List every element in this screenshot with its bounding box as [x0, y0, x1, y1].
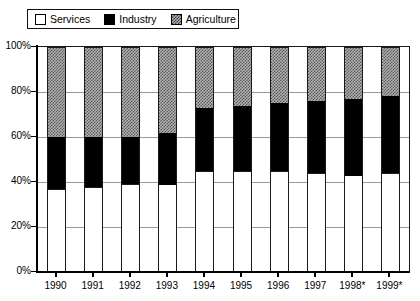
bar-segment-services [84, 187, 103, 273]
bar-segment-agriculture [158, 47, 177, 133]
bar-group [344, 47, 363, 272]
bar-group [84, 47, 103, 272]
bar-segment-services [47, 189, 66, 272]
legend-label-industry: Industry [119, 14, 156, 25]
bar-segment-services [158, 184, 177, 272]
bar-group [47, 47, 66, 272]
y-axis-tick [31, 46, 37, 47]
y-axis-label: 20% [1, 221, 31, 231]
white-square-swatch-icon [35, 14, 46, 25]
bar-segment-industry [121, 137, 140, 184]
x-axis-label: 1992 [110, 280, 150, 291]
black-square-swatch-icon [104, 14, 115, 25]
x-axis-tick [314, 273, 316, 277]
legend-label-services: Services [50, 14, 90, 25]
hatched-square-swatch-icon [171, 14, 182, 25]
y-axis-label: 40% [1, 176, 31, 186]
y-axis-label: 100% [1, 41, 31, 51]
x-axis-label: 1991 [73, 280, 113, 291]
bar-segment-industry [270, 103, 289, 171]
legend-label-agriculture: Agriculture [186, 14, 236, 25]
bar-segment-agriculture [344, 47, 363, 99]
stacked-bar-chart: Services Industry Agriculture 0%20%40%60… [0, 0, 420, 301]
bar-segment-services [381, 173, 400, 272]
x-axis-label: 1997 [295, 280, 335, 291]
bar-group [233, 47, 252, 272]
y-axis-label: 60% [1, 131, 31, 141]
y-axis-tick [31, 271, 37, 272]
x-axis-label: 1995 [221, 280, 261, 291]
x-axis-tick [277, 273, 279, 277]
bar-segment-services [307, 173, 326, 272]
x-axis-label: 1993 [147, 280, 187, 291]
x-axis-label: 1996 [258, 280, 298, 291]
bar-segment-agriculture [233, 47, 252, 106]
x-axis-label: 1994 [184, 280, 224, 291]
bar-segment-agriculture [381, 47, 400, 96]
y-axis: 0%20%40%60%80%100% [0, 0, 31, 301]
bar-segment-industry [158, 133, 177, 185]
x-axis-tick [55, 273, 57, 277]
y-axis-tick [31, 136, 37, 137]
y-axis-tick [31, 181, 37, 182]
y-axis-tick [31, 91, 37, 92]
bar-segment-agriculture [270, 47, 289, 103]
bar-segment-industry [307, 101, 326, 173]
bar-segment-agriculture [84, 47, 103, 137]
bar-segment-industry [47, 137, 66, 189]
x-axis-tick [203, 273, 205, 277]
bar-group [195, 47, 214, 272]
x-axis-tick [388, 273, 390, 277]
plot-area [37, 46, 410, 273]
bar-segment-services [344, 175, 363, 272]
bar-segment-industry [84, 137, 103, 187]
y-axis-tick [31, 226, 37, 227]
bar-segment-services [195, 171, 214, 272]
bar-segment-agriculture [47, 47, 66, 137]
y-axis-label: 80% [1, 86, 31, 96]
bar-segment-agriculture [307, 47, 326, 101]
bar-segment-services [270, 171, 289, 272]
bar-segment-services [233, 171, 252, 272]
bar-group [270, 47, 289, 272]
bar-group [381, 47, 400, 272]
x-axis-tick [92, 273, 94, 277]
bar-segment-services [121, 184, 140, 272]
bar-group [158, 47, 177, 272]
bar-segment-industry [344, 99, 363, 176]
bar-segment-industry [233, 106, 252, 171]
chart-legend: Services Industry Agriculture [27, 9, 239, 29]
legend-entry-industry: Industry [104, 14, 156, 25]
y-axis-label: 0% [1, 266, 31, 276]
x-axis-tick [240, 273, 242, 277]
x-axis-tick [166, 273, 168, 277]
bar-segment-agriculture [121, 47, 140, 137]
bar-segment-industry [381, 96, 400, 173]
x-axis-label: 1990 [36, 280, 76, 291]
x-axis-label: 1998* [332, 280, 372, 291]
bar-segment-agriculture [195, 47, 214, 108]
bar-group [307, 47, 326, 272]
x-axis-label: 1999* [369, 280, 409, 291]
x-axis-tick [129, 273, 131, 277]
bar-segment-industry [195, 108, 214, 171]
legend-entry-agriculture: Agriculture [171, 14, 236, 25]
x-axis-tick [351, 273, 353, 277]
legend-entry-services: Services [35, 14, 90, 25]
bar-group [121, 47, 140, 272]
y-axis-spine [36, 45, 38, 273]
